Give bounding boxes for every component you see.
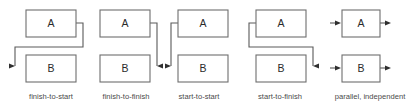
task-box-label: B <box>199 62 206 74</box>
dependency-group-start-to-start: ABstart-to-start <box>165 10 228 101</box>
dependency-diagram-canvas: ABfinish-to-startABfinish-to-finishABsta… <box>0 0 420 110</box>
connector-arrowhead <box>165 63 171 68</box>
task-box-label: B <box>357 62 364 74</box>
task-box-label: A <box>121 17 128 29</box>
connector-arrowhead <box>335 20 341 25</box>
connector-arrowhead <box>157 63 163 68</box>
connector-arrowhead <box>385 65 391 70</box>
task-box-label: A <box>47 17 54 29</box>
connector-arrowhead <box>385 20 391 25</box>
connector-arrowhead <box>313 63 319 68</box>
dependency-caption-parallel-independent: parallel, independent <box>335 92 406 101</box>
connector-arrowhead <box>335 65 341 70</box>
dependency-connector <box>171 23 178 66</box>
task-box-label: A <box>199 17 206 29</box>
dependency-group-finish-to-finish: ABfinish-to-finish <box>100 10 163 101</box>
dependency-group-parallel-independent: ABparallel, independent <box>330 10 406 101</box>
dependency-group-start-to-finish: ABstart-to-finish <box>249 10 319 101</box>
dependency-caption-start-to-start: start-to-start <box>179 92 221 101</box>
dependency-caption-finish-to-finish: finish-to-finish <box>103 92 150 101</box>
connector-arrowhead <box>9 63 15 68</box>
task-box-label: B <box>121 62 128 74</box>
task-box-label: B <box>47 62 54 74</box>
dependency-caption-start-to-finish: start-to-finish <box>258 92 302 101</box>
task-box-label: A <box>357 17 364 29</box>
task-box-label: B <box>277 62 284 74</box>
task-box-label: A <box>277 17 284 29</box>
dependency-caption-finish-to-start: finish-to-start <box>29 92 74 101</box>
dependency-group-finish-to-start: ABfinish-to-start <box>9 10 83 101</box>
dependency-diagram-figure: ABfinish-to-startABfinish-to-finishABsta… <box>0 0 420 110</box>
dependency-connector <box>150 23 157 66</box>
